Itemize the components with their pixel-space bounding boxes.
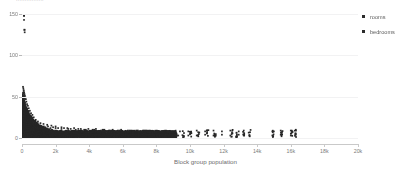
plot-area [22,10,358,138]
y-tick-label: 150 [9,11,18,17]
clipped-header-text: ................ [16,0,44,2]
gridline-y [22,55,358,56]
legend-marker-rooms [362,15,365,18]
x-tick-label: 12k [219,148,228,154]
x-tick-mark [89,144,90,147]
x-tick-label: 8k [154,148,160,154]
x-tick-label: 6k [120,148,126,154]
gridline-y [22,14,358,15]
x-tick-mark [224,144,225,147]
scatter-plot-figure: ................ 050100150 02k4k6k8k10k1… [0,0,411,173]
x-tick-mark [123,144,124,147]
x-tick-label: 0 [21,148,24,154]
legend-item-rooms[interactable]: rooms [362,11,395,22]
x-tick-mark [56,144,57,147]
legend-label-bedrooms: bedrooms [370,29,395,35]
x-tick-label: 18k [320,148,329,154]
legend-marker-bedrooms [362,30,365,33]
x-tick-label: 20k [354,148,363,154]
y-tick-mark [19,55,22,56]
gridline-y [22,97,358,98]
x-tick-mark [324,144,325,147]
x-tick-label: 10k [186,148,195,154]
legend-label-rooms: rooms [370,14,386,20]
x-tick-label: 4k [86,148,92,154]
legend: rooms bedrooms [362,11,395,41]
legend-item-bedrooms[interactable]: bedrooms [362,26,395,37]
x-tick-mark [156,144,157,147]
x-tick-label: 2k [53,148,59,154]
y-tick-label: 100 [9,52,18,58]
scatter-points-canvas [22,10,358,138]
x-tick-label: 16k [287,148,296,154]
x-tick-mark [22,144,23,147]
x-tick-mark [358,144,359,147]
x-tick-mark [190,144,191,147]
y-tick-mark [19,14,22,15]
y-tick-label: 50 [12,94,18,100]
x-tick-mark [257,144,258,147]
x-axis-title: Block group population [0,158,411,165]
y-tick-mark [19,97,22,98]
x-tick-mark [291,144,292,147]
gridline-y [22,138,358,139]
y-tick-label: 0 [15,135,18,141]
y-tick-mark [19,138,22,139]
x-tick-label: 14k [253,148,262,154]
